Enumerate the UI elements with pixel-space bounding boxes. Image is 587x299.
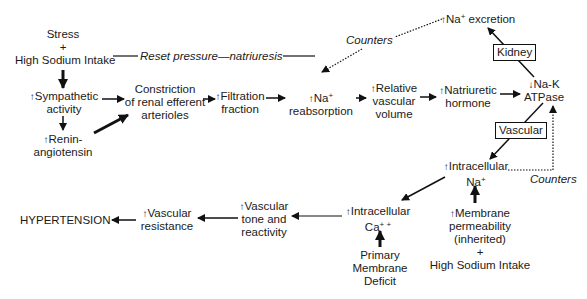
node-na-k-atpase: ↓Na-K ATPase <box>520 78 568 104</box>
label: of renal efferent <box>124 96 206 109</box>
box-kidney: Kidney <box>493 44 536 61</box>
node-renin-angiotensin: ↑Renin- angiotensin <box>30 133 96 159</box>
node-natriuretic-hormone: ↑Natriuretic hormone <box>436 84 500 110</box>
label: reactivity <box>236 226 292 239</box>
label: ATPase <box>520 91 568 104</box>
label: Counters <box>530 173 577 185</box>
label: Stress <box>15 28 111 41</box>
node-stress-high-sodium: Stress + High Sodium Intake <box>15 28 111 67</box>
label: Na-K <box>533 78 559 90</box>
node-vascular-resistance: ↑Vascular resistance <box>138 207 196 233</box>
label: Vascular <box>148 207 192 219</box>
dotted-counters-top-a <box>395 19 442 37</box>
node-membrane-permeability: ↑Membrane permeability (inherited) + Hig… <box>425 207 535 272</box>
label: Na <box>446 13 461 25</box>
dotted-counters-top-b <box>322 49 362 72</box>
superscript: + <box>329 91 334 100</box>
arrow-na-to-ca <box>402 177 445 200</box>
node-reset-pressure-natriuresis: Reset pressure—natriuresis <box>140 50 283 63</box>
label-counters-top: Counters <box>346 34 393 47</box>
label: permeability <box>425 220 535 233</box>
label: vascular <box>366 95 422 108</box>
superscript: + + <box>380 220 392 229</box>
node-hypertension: HYPERTENSION <box>20 214 111 227</box>
node-relative-vascular-volume: ↑Relative vascular volume <box>366 82 422 121</box>
label: hormone <box>436 97 500 110</box>
label: Na <box>314 92 329 104</box>
superscript: + <box>481 175 486 184</box>
label: reabsorption <box>286 105 356 118</box>
label: Primary <box>350 249 410 262</box>
label: arterioles <box>124 109 206 122</box>
node-na-reabsorption: ↑Na+ reabsorption <box>286 89 356 118</box>
label: Filtration <box>220 90 264 102</box>
label: Renin- <box>49 133 83 145</box>
node-filtration-fraction: ↑Filtration fraction <box>214 90 266 116</box>
label: High Sodium Intake <box>15 54 111 67</box>
label: excretion <box>465 13 515 25</box>
label: angiotensin <box>30 146 96 159</box>
label: Intracellular <box>449 160 508 172</box>
label: Relative <box>376 82 418 94</box>
label: Reset pressure—natriuresis <box>140 50 283 62</box>
label: Vascular <box>245 200 289 212</box>
arrow-renin-to-constriction <box>94 115 128 133</box>
node-na-excretion: ↑Na+ excretion <box>441 10 515 26</box>
box-vascular: Vascular <box>495 122 547 139</box>
label: volume <box>366 108 422 121</box>
label: Membrane <box>350 262 410 275</box>
label: Counters <box>346 34 393 46</box>
label: Intracellular <box>351 205 410 217</box>
label: High Sodium Intake <box>425 259 535 272</box>
label: + <box>425 246 535 259</box>
label: Membrane <box>455 207 510 219</box>
label: resistance <box>138 220 196 233</box>
label-counters-right: Counters <box>530 173 577 186</box>
label: Vascular <box>499 124 543 136</box>
label: Kidney <box>497 46 532 58</box>
node-constriction: Constriction of renal efferent arteriole… <box>124 83 206 122</box>
label: Natriuretic <box>444 84 496 96</box>
label: tone and <box>236 213 292 226</box>
node-intracellular-ca: ↑Intracellular Ca+ + <box>342 205 414 234</box>
label: HYPERTENSION <box>20 214 111 226</box>
label: Constriction <box>124 83 206 96</box>
label: Na <box>466 176 481 188</box>
label: + <box>15 41 111 54</box>
label: fraction <box>214 103 266 116</box>
label: activity <box>27 103 101 116</box>
node-primary-membrane-deficit: Primary Membrane Deficit <box>350 249 410 288</box>
label: Deficit <box>350 275 410 288</box>
node-intracellular-na: ↑Intracellular Na+ <box>440 160 512 189</box>
label: Sympathetic <box>35 90 98 102</box>
label: Ca <box>365 221 380 233</box>
label: (inherited) <box>425 233 535 246</box>
node-sympathetic-activity: ↑Sympathetic activity <box>27 90 101 116</box>
node-vascular-tone-reactivity: ↑Vascular tone and reactivity <box>236 200 292 239</box>
